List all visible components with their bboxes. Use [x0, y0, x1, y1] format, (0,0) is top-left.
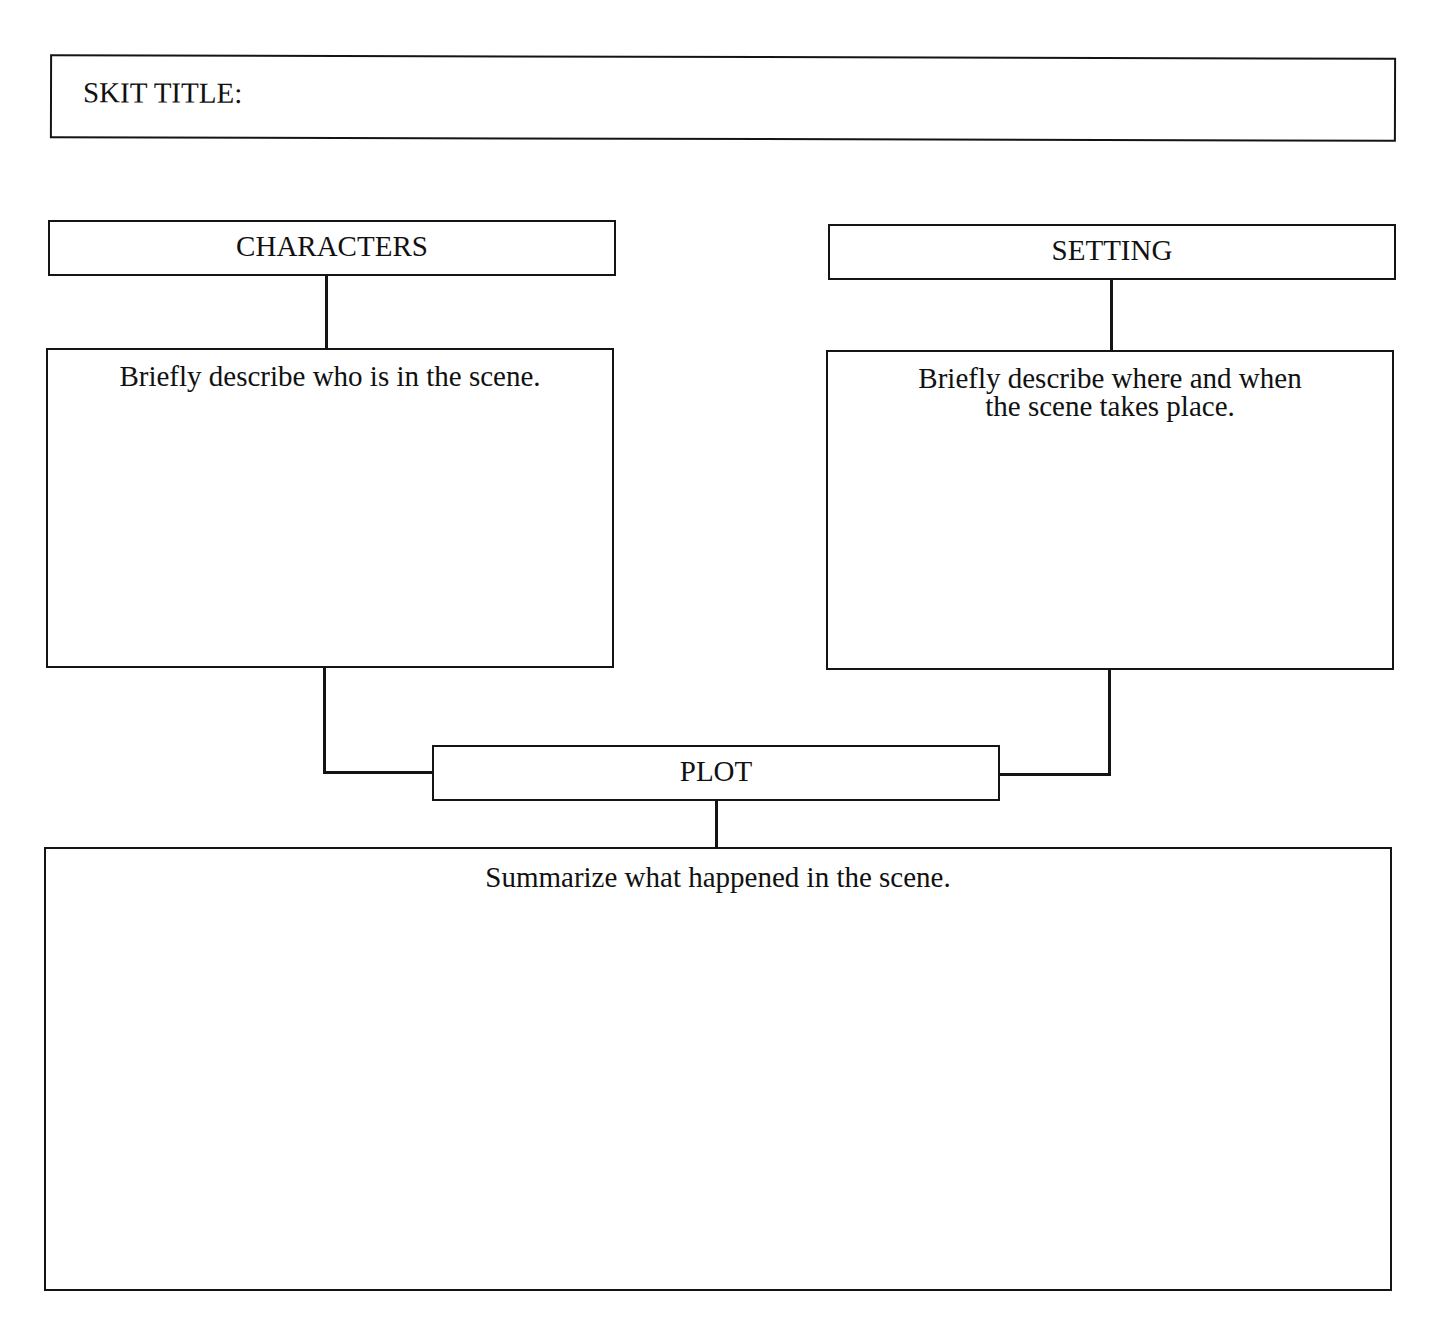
setting-header: SETTING: [828, 224, 1396, 280]
characters-input[interactable]: [56, 410, 604, 658]
characters-to-plot-vertical: [323, 668, 326, 774]
setting-connector: [1110, 280, 1113, 351]
plot-connector: [715, 800, 718, 849]
plot-header: PLOT: [432, 745, 1000, 801]
setting-prompt-line2: the scene takes place.: [828, 392, 1392, 420]
characters-to-plot-horizontal: [323, 771, 433, 774]
setting-input[interactable]: [836, 432, 1384, 660]
setting-header-label: SETTING: [830, 236, 1394, 265]
plot-header-label: PLOT: [434, 757, 998, 786]
skit-title-label: SKIT TITLE:: [83, 76, 242, 109]
plot-box[interactable]: Summarize what happened in the scene.: [44, 847, 1392, 1291]
characters-header: CHARACTERS: [48, 220, 616, 276]
setting-box[interactable]: Briefly describe where and when the scen…: [826, 350, 1394, 670]
characters-box[interactable]: Briefly describe who is in the scene.: [46, 348, 614, 668]
characters-connector: [325, 276, 328, 349]
plot-input[interactable]: [54, 909, 1382, 1281]
skit-title-input[interactable]: [272, 75, 1374, 120]
plot-prompt: Summarize what happened in the scene.: [46, 863, 1390, 891]
characters-prompt: Briefly describe who is in the scene.: [48, 362, 612, 390]
setting-to-plot-horizontal: [998, 773, 1111, 776]
characters-header-label: CHARACTERS: [50, 232, 614, 261]
skit-title-box[interactable]: SKIT TITLE:: [50, 54, 1396, 142]
setting-to-plot-vertical: [1108, 670, 1111, 776]
setting-prompt-line1: Briefly describe where and when: [828, 364, 1392, 392]
